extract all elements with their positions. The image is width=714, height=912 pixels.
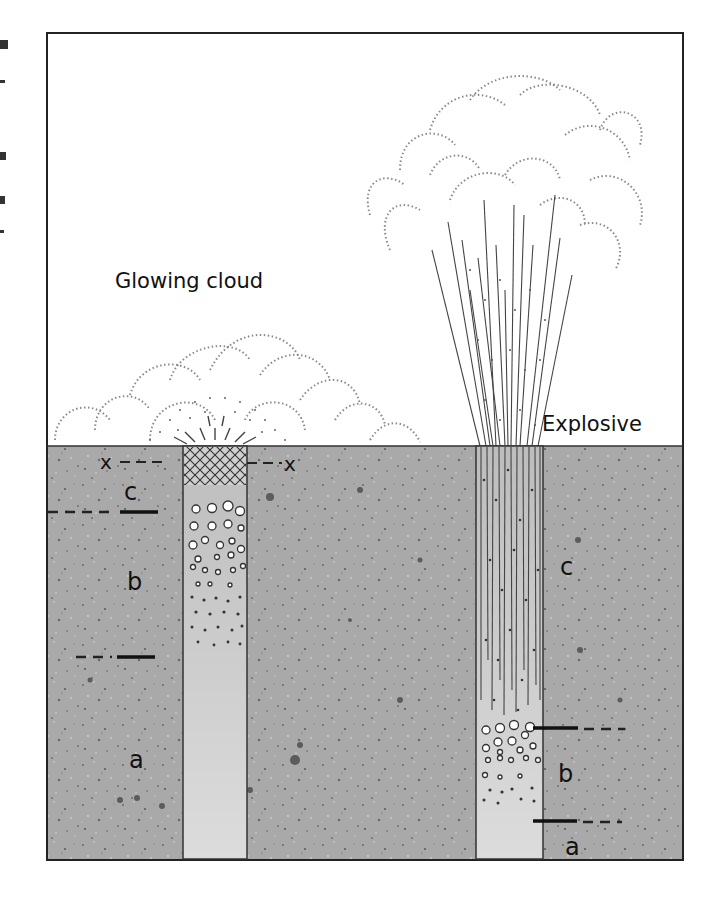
- label-x-right: x: [284, 452, 296, 476]
- label-b-left: b: [127, 568, 142, 596]
- volcanic-eruption-diagram: Glowing cloud x x c b a: [0, 0, 714, 912]
- label-c-right: c: [560, 553, 573, 581]
- label-a-left: a: [129, 746, 144, 774]
- left-conduit-hatched-zone: [184, 447, 246, 485]
- label-b-right: b: [558, 760, 573, 788]
- ground-layer: [48, 446, 682, 859]
- label-x-left: x: [100, 450, 112, 474]
- label-c-left: c: [124, 478, 137, 506]
- glowing-cloud-title: Glowing cloud: [115, 269, 263, 293]
- explosive-title: Explosive: [542, 412, 642, 436]
- right-conduit: [476, 446, 543, 859]
- label-a-right: a: [565, 833, 580, 861]
